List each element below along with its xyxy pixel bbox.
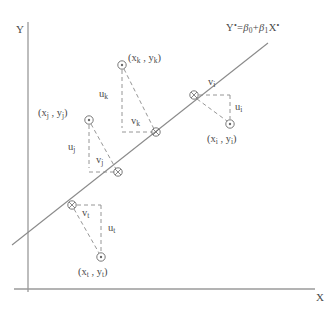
axes-group <box>14 22 315 292</box>
point-t-open: (x <box>78 266 87 277</box>
v-k-subscript: k <box>136 119 140 128</box>
deviation-label-u-k: uk <box>99 89 108 101</box>
y-axis-label: Y <box>16 24 24 35</box>
equation-star-x: • <box>277 21 280 30</box>
deviation-label-v-k: vk <box>131 116 140 128</box>
data-point-i <box>226 120 234 128</box>
regression-deviation-diagram: Y X Y•=β0+β1X• (xk , yk) uk vk (xj , yj)… <box>0 0 335 321</box>
point-k-close: ) <box>157 52 161 63</box>
deviation-label-u-i: ui <box>235 102 242 114</box>
point-label-k: (xk , yk) <box>128 53 161 65</box>
deviation-label-v-t: vt <box>82 208 89 220</box>
point-i-open: (x <box>207 133 216 144</box>
u-j-subscript: j <box>73 145 75 154</box>
point-t-close: ) <box>104 266 108 277</box>
deviation-label-v-j: vj <box>96 155 103 167</box>
deviation-label-u-t: ut <box>108 223 115 235</box>
v-i-subscript: i <box>213 80 215 89</box>
point-label-j: (xj , yj) <box>38 108 68 120</box>
point-j-mid: , y <box>49 107 62 118</box>
v-t-subscript: t <box>87 211 89 220</box>
equation-y: Y <box>226 22 234 33</box>
data-point-k <box>118 61 126 69</box>
deviation-label-v-i: vi <box>208 77 215 89</box>
fitted-point-j <box>114 168 122 176</box>
deviation-label-u-j: uj <box>68 142 75 154</box>
data-point-t <box>97 253 105 261</box>
u-t-subscript: t <box>113 226 115 235</box>
point-j-open: (x <box>38 107 47 118</box>
fitted-point-k <box>152 128 160 136</box>
hypotenuse-i <box>197 99 227 121</box>
fitted-point-t <box>68 201 76 209</box>
equation-x: X <box>269 22 277 33</box>
point-i-close: ) <box>233 133 237 144</box>
point-k-open: (x <box>128 52 137 63</box>
point-k-mid: , y <box>141 52 154 63</box>
x-axis-label: X <box>316 292 324 303</box>
deviation-group-j <box>85 116 122 176</box>
regression-equation: Y•=β0+β1X• <box>226 22 280 34</box>
point-label-i: (xi , yi) <box>207 134 237 146</box>
u-i-subscript: i <box>240 105 242 114</box>
data-point-j <box>85 116 93 124</box>
deviation-group-i <box>190 91 234 128</box>
point-j-close: ) <box>64 107 68 118</box>
u-k-subscript: k <box>104 92 108 101</box>
point-t-mid: , y <box>89 266 102 277</box>
hypotenuse-j <box>91 124 116 169</box>
diagram-canvas <box>0 0 335 321</box>
fitted-point-i <box>190 91 198 99</box>
point-label-t: (xt , yt) <box>78 267 108 279</box>
point-i-mid: , y <box>218 133 231 144</box>
v-j-subscript: j <box>101 158 103 167</box>
